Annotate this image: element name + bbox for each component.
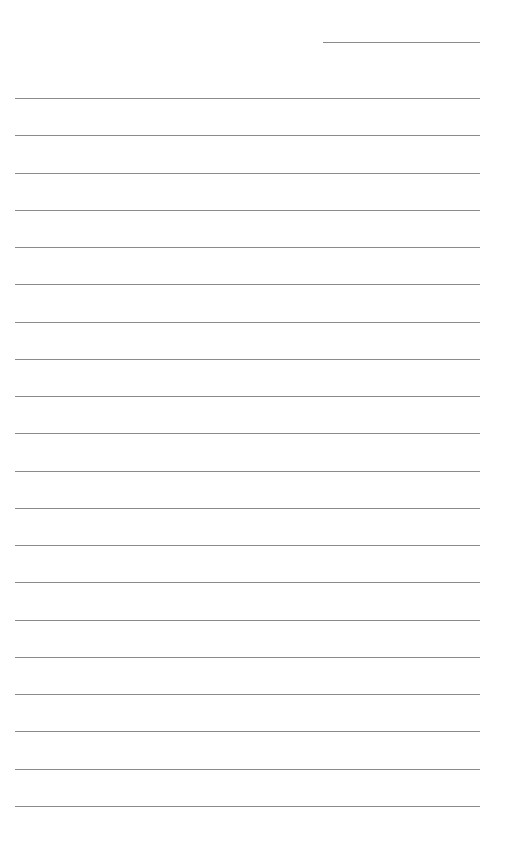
ruled-line xyxy=(15,620,480,621)
ruled-line xyxy=(15,657,480,658)
ruled-line xyxy=(15,806,480,807)
ruled-line xyxy=(15,508,480,509)
ruled-line xyxy=(15,322,480,323)
ruled-line xyxy=(15,135,480,136)
ruled-line xyxy=(15,769,480,770)
ruled-line xyxy=(15,433,480,434)
ruled-line xyxy=(15,247,480,248)
ruled-line xyxy=(15,359,480,360)
ruled-line xyxy=(15,210,480,211)
ruled-line xyxy=(15,731,480,732)
ruled-line xyxy=(15,545,480,546)
date-line xyxy=(323,42,480,43)
ruled-line xyxy=(15,284,480,285)
ruled-line xyxy=(15,471,480,472)
ruled-line xyxy=(15,694,480,695)
ruled-line xyxy=(15,98,480,99)
ruled-line xyxy=(15,173,480,174)
ruled-line xyxy=(15,396,480,397)
ruled-line xyxy=(15,582,480,583)
